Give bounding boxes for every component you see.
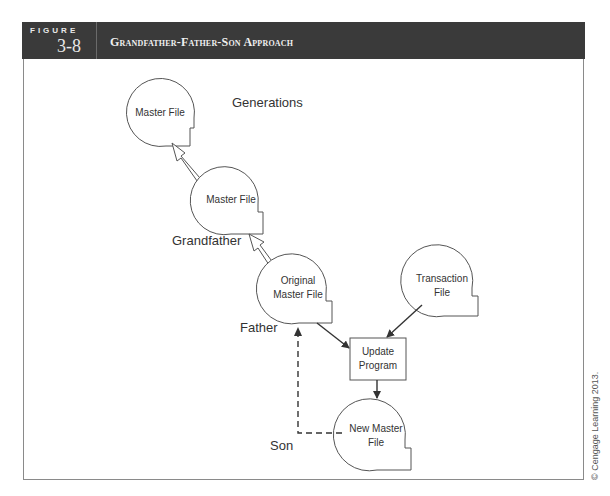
master-file-top-node: Master File <box>126 78 194 146</box>
copyright-credit: © Cengage Learning 2013. <box>590 372 600 480</box>
dashed-line-son-to-father <box>298 334 342 433</box>
master-file-top-text: Master File <box>135 107 185 118</box>
label-grandfather: Grandfather <box>172 233 242 248</box>
original-master-file-node: Original Master File <box>256 254 332 324</box>
new-master-text-1: New Master <box>349 423 403 434</box>
master-file-mid-text: Master File <box>206 194 256 205</box>
transaction-text-2: File <box>434 287 451 298</box>
original-master-text-2: Master File <box>273 289 323 300</box>
update-text-1: Update <box>362 346 395 357</box>
transaction-text-1: Transaction <box>416 273 468 284</box>
label-son: Son <box>270 438 293 453</box>
diagram-canvas: Master File Master File Original Master … <box>0 0 610 496</box>
new-master-text-2: File <box>368 437 385 448</box>
master-file-mid-node: Master File <box>190 167 263 235</box>
arrow-original-to-update <box>317 323 349 348</box>
update-text-2: Program <box>359 360 397 371</box>
transaction-file-node: Transaction File <box>401 245 478 317</box>
dashed-arrowhead <box>294 327 302 336</box>
label-father: Father <box>240 320 278 335</box>
update-program-node: Update Program <box>350 338 406 380</box>
new-master-file-node: New Master File <box>333 399 411 471</box>
label-generations: Generations <box>232 95 303 110</box>
arrow-transaction-to-update <box>387 305 422 337</box>
original-master-text-1: Original <box>281 275 315 286</box>
